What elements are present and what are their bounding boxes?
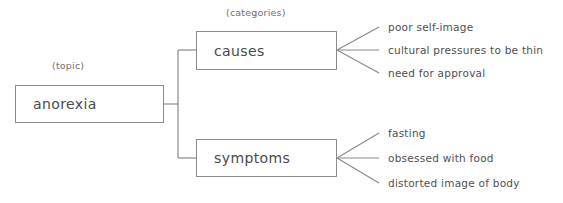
symptoms-item-1: fasting [388,127,426,139]
connector-symptoms-item-1 [337,133,379,158]
categories-tag: (categories) [226,7,286,18]
connector-symptoms-item-3 [337,158,379,183]
diagram-canvas: (topic) (categories) anorexia causes sym… [0,0,563,203]
causes-item-1: poor self-image [388,21,473,33]
category-box-symptoms-label: symptoms [197,150,290,166]
category-box-symptoms[interactable]: symptoms [196,139,337,177]
causes-item-2: cultural pressures to be thin [388,44,543,56]
symptoms-item-3: distorted image of body [388,177,520,189]
symptoms-item-2: obsessed with food [388,152,494,164]
topic-box[interactable]: anorexia [15,85,164,123]
connector-causes-item-3 [337,50,379,73]
category-box-causes[interactable]: causes [196,31,337,70]
causes-item-3: need for approval [388,67,485,79]
topic-tag: (topic) [52,60,84,71]
category-box-causes-label: causes [197,43,265,59]
connector-causes-item-1 [337,27,379,50]
topic-box-label: anorexia [16,96,97,112]
